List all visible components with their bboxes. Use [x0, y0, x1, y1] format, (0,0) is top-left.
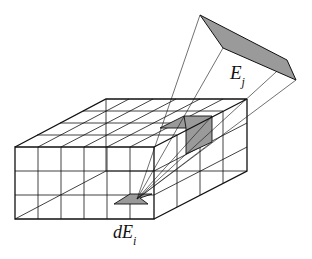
diagram-canvas: Ej dEi	[0, 0, 312, 259]
label-receiver-patch: dEi	[113, 222, 136, 247]
receiver-patch	[114, 194, 152, 204]
diagram-svg	[0, 0, 312, 259]
label-source-patch: Ej	[230, 62, 245, 88]
source-patch	[200, 15, 296, 80]
